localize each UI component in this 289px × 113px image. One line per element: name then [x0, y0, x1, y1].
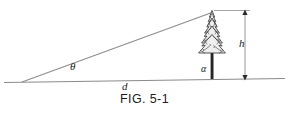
dimension-arrow-bottom [242, 75, 247, 81]
figure-container: θ d h α FIG. 5-1 [0, 0, 289, 113]
distance-d-label: d [122, 81, 128, 92]
line-of-sight [22, 13, 212, 83]
angle-alpha-label: α [201, 64, 206, 74]
figure-caption: FIG. 5-1 [0, 92, 289, 106]
ground-line [4, 79, 285, 83]
height-h-label: h [239, 38, 245, 49]
angle-theta-label: θ [70, 61, 75, 72]
